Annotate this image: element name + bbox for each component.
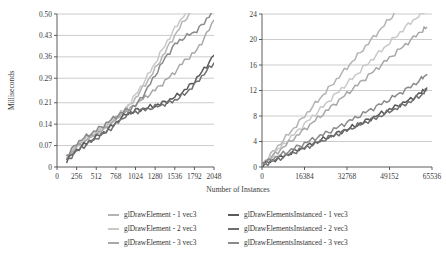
line-swatch-icon: [108, 214, 119, 217]
x-tick-label: 32768: [338, 172, 357, 181]
legend-item-label: glDrawElement - 3 vec3: [124, 239, 196, 246]
series-line: [263, 27, 426, 164]
y-tick-label: 12: [250, 86, 258, 95]
legend-item-label: glDrawElementsInstanced - 3 vec3: [244, 239, 348, 246]
legend-item[interactable]: glDrawElementsInstanced - 3 vec3: [228, 236, 348, 250]
legend-item[interactable]: glDrawElement - 2 vec3: [108, 222, 196, 236]
y-tick-label: 24: [250, 10, 258, 19]
y-tick-label: 8: [253, 112, 257, 121]
chart-legend: glDrawElement - 1 vec3glDrawElement - 2 …: [0, 208, 446, 260]
y-tick-label: 4: [253, 137, 257, 146]
legend-item[interactable]: glDrawElementsInstanced - 1 vec3: [228, 208, 348, 222]
y-tick-label: 0: [253, 163, 257, 172]
line-swatch-icon: [108, 228, 119, 231]
legend-item-label: glDrawElement - 2 vec3: [124, 225, 196, 232]
legend-item-label: glDrawElementsInstanced - 1 vec3: [244, 211, 348, 218]
y-tick-label: 20: [250, 35, 258, 44]
line-swatch-icon: [228, 214, 239, 217]
x-tick-label: 16384: [295, 172, 314, 181]
chart-gldrawelement-large-range: 04812162024016384327684915265536: [0, 0, 446, 210]
line-swatch-icon: [108, 242, 119, 245]
legend-item[interactable]: glDrawElement - 3 vec3: [108, 236, 196, 250]
legend-column-gldrawelementsinstanced: glDrawElementsInstanced - 1 vec3glDrawEl…: [228, 208, 348, 250]
y-tick-label: 16: [250, 61, 258, 70]
legend-item[interactable]: glDrawElementsInstanced - 2 vec3: [228, 222, 348, 236]
legend-column-gldrawelement: glDrawElement - 1 vec3glDrawElement - 2 …: [108, 208, 196, 250]
x-tick-label: 0: [260, 172, 264, 181]
chart-figure: 00.070.140.210.290.360.430.5002565127681…: [0, 0, 446, 260]
line-swatch-icon: [228, 242, 239, 245]
legend-item-label: glDrawElement - 1 vec3: [124, 211, 196, 218]
x-tick-label: 49152: [380, 172, 399, 181]
line-swatch-icon: [228, 228, 239, 231]
x-tick-label: 65536: [423, 172, 442, 181]
legend-item[interactable]: glDrawElement - 1 vec3: [108, 208, 196, 222]
legend-item-label: glDrawElementsInstanced - 2 vec3: [244, 225, 348, 232]
series-line: [263, 10, 426, 162]
series-line: [263, 0, 426, 163]
